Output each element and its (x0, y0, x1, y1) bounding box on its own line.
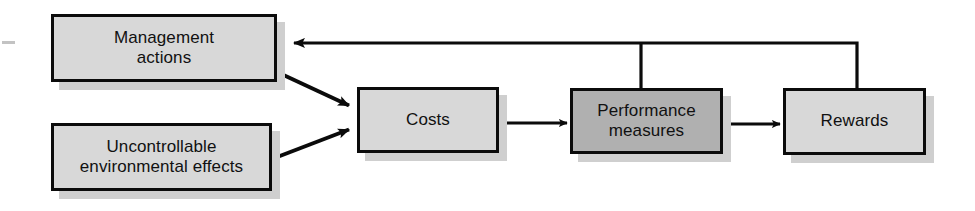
node-label-costs: Costs (402, 110, 454, 130)
node-label-uncontrollable-environmental-effects: Uncontrollable environmental effects (76, 137, 247, 177)
node-label-performance-measures: Performance measures (593, 101, 699, 141)
node-performance-measures[interactable]: Performance measures (570, 88, 723, 154)
edge-rewards-feedback-to-management-actions (294, 43, 857, 90)
scan-dash-mark-artifact (2, 41, 15, 44)
node-costs[interactable]: Costs (357, 87, 499, 153)
node-rewards[interactable]: Rewards (783, 88, 926, 155)
flow-diagram: Management actions Uncontrollable enviro… (0, 0, 975, 211)
node-label-rewards: Rewards (817, 111, 893, 131)
node-label-management-actions: Management actions (110, 28, 218, 68)
edge-uncontrollable-effects-to-costs (272, 130, 349, 160)
node-uncontrollable-environmental-effects[interactable]: Uncontrollable environmental effects (51, 123, 272, 191)
node-management-actions[interactable]: Management actions (51, 14, 277, 82)
edge-management-actions-to-costs (277, 72, 349, 106)
